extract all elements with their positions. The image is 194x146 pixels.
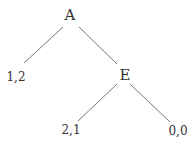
tree-edges [0,0,194,146]
node-a: A [65,8,76,23]
payoff-left: 1,2 [6,71,25,83]
edge-a-e [79,27,117,64]
edge-e-left [78,84,117,121]
edge-a-left [24,27,63,63]
payoff-right: 0,0 [168,125,187,137]
payoff-middle: 2,1 [61,124,80,136]
node-e: E [120,68,131,83]
edge-e-right [130,84,170,122]
